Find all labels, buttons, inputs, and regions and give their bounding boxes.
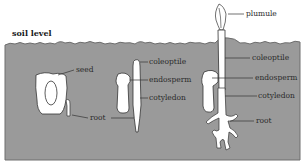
stage-2-endosperm-label: endosperm — [149, 76, 191, 84]
stage-3-coleoptile-label: coleoptile — [252, 54, 289, 62]
soil-level-label: soil level — [12, 29, 52, 37]
stage-3-cotyledon-label: cotyledon — [258, 92, 295, 100]
stage-1-seed-label: seed — [76, 66, 94, 74]
germination-diagram: soil level seed root coleoptile endosper… — [0, 0, 305, 165]
stage-2-coleoptile-label: coleoptile — [149, 58, 186, 66]
stage-1-root-label: root — [90, 114, 106, 122]
stage-2-cotyledon-label: cotyledon — [149, 94, 186, 102]
stage-3-plumule-label: plumule — [246, 10, 277, 18]
stage-3-endosperm-label: endosperm — [255, 74, 297, 82]
stage-3-root-label: root — [256, 117, 272, 125]
